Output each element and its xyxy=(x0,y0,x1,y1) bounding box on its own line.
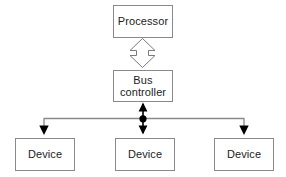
node-device-0-label: Device xyxy=(28,148,62,161)
bus-device-2-link-arrow xyxy=(239,126,248,136)
node-processor[interactable]: Processor xyxy=(113,5,173,38)
node-device-1-label: Device xyxy=(128,148,162,161)
node-device-2[interactable]: Device xyxy=(214,138,274,171)
node-processor-label: Processor xyxy=(118,15,168,28)
bus-junction-dot xyxy=(139,115,146,122)
node-bus-controller-label: Bus controller xyxy=(120,74,166,99)
node-bus-controller[interactable]: Bus controller xyxy=(113,70,173,102)
node-device-2-label: Device xyxy=(227,148,261,161)
processor-bus-link-hollow-double-arrow xyxy=(130,39,155,68)
bus-device-0-link-arrow xyxy=(39,126,48,136)
node-device-1[interactable]: Device xyxy=(115,138,175,171)
diagram-canvas: Processor Bus controller Device Device D… xyxy=(0,0,286,177)
node-device-0[interactable]: Device xyxy=(15,138,75,171)
